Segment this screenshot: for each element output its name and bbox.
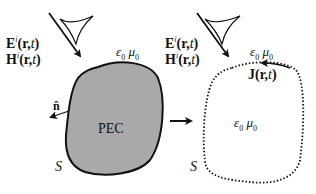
- equivalence-diagram: Ei(r,t) Hi(r,t) ε0 μ0 PEC n̂ S Ei(r,t) H…: [0, 0, 316, 194]
- pec-label: PEC: [98, 122, 124, 136]
- diagram-graphics: [0, 0, 316, 194]
- incident-h-label-right: Hi(r,t): [165, 52, 200, 67]
- source-icon-right: [197, 13, 240, 56]
- incident-e-label-right: Ei(r,t): [165, 36, 198, 51]
- incident-e-label-left: Ei(r,t): [6, 36, 39, 51]
- interior-medium-label: ε0 μ0: [234, 116, 257, 133]
- medium-label-left: ε0 μ0: [116, 45, 139, 62]
- medium-label-right: ε0 μ0: [250, 45, 273, 62]
- surface-label-left: S: [55, 160, 62, 174]
- normal-label: n̂: [53, 100, 60, 112]
- surface-label-right: S: [190, 160, 197, 174]
- incident-h-label-left: Hi(r,t): [6, 52, 41, 67]
- source-icon-left: [49, 13, 93, 56]
- current-label: J(r,t): [248, 68, 277, 82]
- pec-object: [66, 62, 163, 174]
